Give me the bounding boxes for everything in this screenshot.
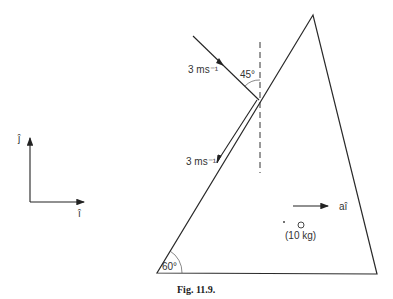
acceleration-label: aî <box>339 201 349 212</box>
figure-caption: Fig. 11.9. <box>177 284 216 295</box>
axis-j-label: ĵ <box>17 133 21 144</box>
outgoing-arrow-icon <box>217 155 221 163</box>
incidence-angle-arc <box>245 80 260 86</box>
wedge-angle-label: 60° <box>162 261 177 272</box>
incidence-angle-label: 45° <box>240 69 255 80</box>
outgoing-velocity-line <box>217 100 257 162</box>
incoming-speed-label: 3 ms⁻¹ <box>188 64 219 75</box>
mass-circle-icon <box>298 222 304 228</box>
mass-point-icon <box>283 221 285 223</box>
wedge-triangle <box>157 15 377 274</box>
diagram-canvas: 60° 3 ms⁻¹ 45° 3 ms⁻¹ aî (10 kg) ĵ î Fig… <box>0 0 393 299</box>
mass-label: (10 kg) <box>285 230 316 241</box>
axis-i-label: î <box>77 208 82 219</box>
outgoing-speed-label: 3 ms⁻¹ <box>186 156 217 167</box>
